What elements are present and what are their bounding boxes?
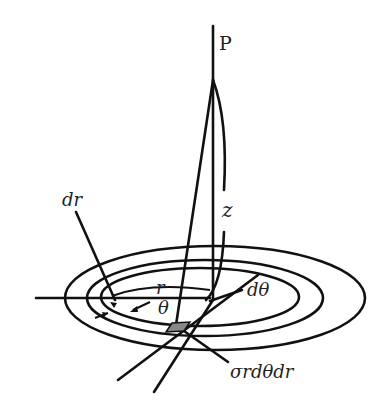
dr-arrowhead-inner [110,302,117,308]
disk-field-diagram: P z r θ dr dθ σrdθdr [0,0,392,406]
charge-element-label: σrdθdr [230,361,295,382]
diagram-svg: P z r θ dr dθ σrdθdr [0,0,392,406]
dr-leader [76,212,115,300]
dtheta-label: dθ [247,279,270,300]
theta-arrowhead [130,306,138,312]
point-p-label: P [219,32,232,54]
height-z-label: z [221,198,233,222]
z-dimension-arc-upper [213,80,225,190]
dr-label: dr [62,189,84,210]
radius-r-label: r [156,277,166,298]
angle-theta-label: θ [158,297,169,318]
